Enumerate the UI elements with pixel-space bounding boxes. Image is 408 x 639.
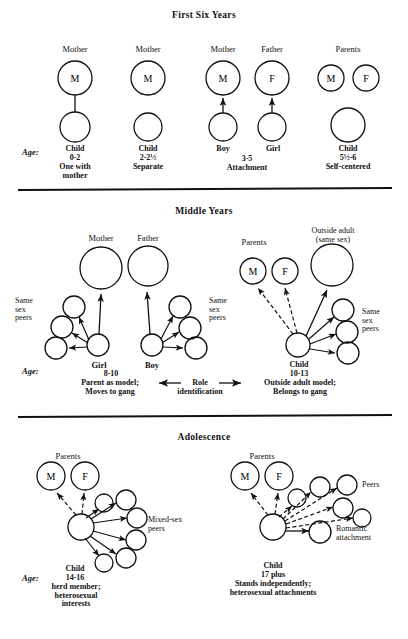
label-mother-g2: Mother [118,45,178,55]
arrow-child-to-parent-m-ado-left [57,493,76,515]
arrow-child-to-outside-adult [306,290,327,336]
arrow-child-to-peer-3-ado-right [285,488,337,521]
age-label-panel1: Age: [22,147,39,157]
node-letter-f-g5: F [363,73,369,84]
label-same-sex-peers-left: Same sex peers [15,297,49,323]
arrow-child-to-mixed-peer-3 [93,518,127,523]
arrow-child-to-parent-f-ado-right [275,493,278,514]
node-mixed-peer-4 [126,530,146,550]
arrow-girl-to-mother [99,294,101,334]
divider-2 [18,415,392,417]
arrow-child-to-mixed-peer-1 [86,509,99,518]
arrow-boy-to-peer-3 [163,347,183,348]
label-mother-mid: Mother [73,234,129,244]
node-peer-1-ado-right [288,489,306,507]
caption-desc-attachment: Attachment [205,164,289,173]
label-mother-g1: Mother [45,45,105,55]
node-peer-3-ado-right [337,475,357,495]
divider-1 [18,188,392,190]
label-parents-ado-left: Parents [42,452,94,462]
node-girl-peer-2 [51,316,73,338]
caption-girl-g4: Girl [246,145,300,154]
node-mixed-peer-2 [116,490,136,510]
node-boy-mid [141,334,163,356]
arrow-child-to-peer-2-ado-right [283,492,311,519]
caption-desc-mid-right: Outside adult model; Belongs to gang [244,379,356,396]
arrow-boy-to-father [147,292,150,334]
node-letter-f-ado-left: F [82,471,88,482]
node-father-mid [128,246,168,286]
caption-boy-g3: Boy [196,145,250,154]
arrow-child-to-peer-3-mid [310,349,335,353]
node-outside-adult [311,244,353,286]
node-boy-g3 [209,113,237,141]
label-same-sex-peers-mid-right: Same sex peers [362,308,400,334]
node-letter-f-ado-right: F [276,471,282,482]
node-child-mid [286,333,310,357]
label-romantic-attachment: Romantic attachment [336,525,406,542]
node-girl-peer-1 [63,296,85,318]
arrow-boy-to-peer-1 [161,316,173,339]
node-mother-mid [80,247,122,289]
caption-desc-g1: One with mother [38,163,112,180]
age-label-panel2: Age: [22,366,39,376]
node-child-g1 [60,112,90,142]
node-letter-f-g4: F [269,73,275,84]
node-letter-m-g3: M [219,73,228,84]
arrow-girl-to-peer-1 [79,317,89,340]
node-child-ado-right [260,514,286,540]
caption-desc-g5: Self-centered [306,163,390,172]
node-boy-peer-3 [185,337,207,359]
arrow-child-to-parent-m-mid [258,288,293,334]
arrow-child-to-mixed-peer-5 [90,536,116,554]
label-mixed-sex-peers: Mixed-sex peers [148,516,206,533]
label-outside-adult: Outside adult (same sex) [294,227,372,244]
label-father-mid: Father [122,234,174,244]
node-child-peer-1-mid [332,299,354,321]
node-child-g5 [331,108,365,142]
caption-desc-mid-left: Parent as model; Moves to gang [56,379,164,396]
node-letter-m-g1: M [71,73,80,84]
label-boy-mid: Boy [131,361,173,371]
node-letter-m-g5: M [327,73,336,84]
figure-page: M M M F M F [0,0,408,639]
arrow-girl-to-peer-2 [72,333,88,343]
node-girl-peer-3 [45,337,67,359]
node-peer-4-ado-right [333,498,353,518]
label-father-g4: Father [242,45,302,55]
arrow-boy-to-peer-2 [162,332,179,343]
arrow-child-to-peer-2-mid [310,334,336,344]
node-peer-2-ado-right [310,477,330,497]
label-same-sex-peers-right: Same sex peers [209,297,245,323]
section-title-adolescence: Adolescence [0,432,408,442]
arrow-child-to-mixed-peer-4 [93,531,126,540]
section-title-first-six-years: First Six Years [0,10,408,20]
diagram-canvas: M M M F M F [0,0,408,639]
node-letter-f-mid: F [282,266,288,277]
label-role-identification: Role identification [169,379,231,396]
age-label-panel3: Age: [22,573,39,583]
node-boy-peer-1 [169,296,191,318]
label-parents-mid: Parents [230,238,278,248]
node-child-peer-2-mid [336,321,358,343]
arrow-girl-to-peer-3 [69,347,87,348]
caption-desc-ado-left: herd member; heterosexual interests [34,583,118,609]
section-title-middle-years: Middle Years [0,206,408,216]
node-child-g2 [134,113,162,141]
node-letter-m-ado-left: M [47,471,56,482]
caption-desc-ado-right: Stands independently; heterosexual attac… [198,580,348,597]
label-peers-ado-right: Peers [362,481,402,490]
label-parents-ado-right: Parents [236,452,288,462]
arrow-child-to-parent-f-ado-left [82,493,84,514]
node-mixed-peer-3 [127,508,147,528]
node-girl-mid [87,334,109,356]
caption-desc-g2: Separate [118,163,178,172]
label-parents-g5: Parents [318,45,378,55]
node-letter-m-ado-right: M [241,471,250,482]
node-child-peer-3-mid [337,342,359,364]
arrow-child-to-parent-m-ado-right [251,493,268,515]
node-boy-peer-2 [179,317,201,339]
node-girl-g4 [258,113,286,141]
node-letter-m-g2: M [144,73,153,84]
node-letter-m-mid: M [249,266,258,277]
